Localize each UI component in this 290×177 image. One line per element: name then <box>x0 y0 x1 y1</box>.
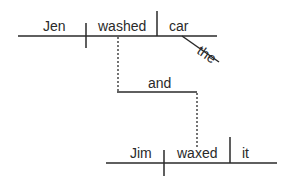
word-jen: Jen <box>43 19 66 33</box>
word-and: and <box>148 76 171 90</box>
word-it: it <box>242 146 249 160</box>
word-waxed: waxed <box>177 146 217 160</box>
word-washed: washed <box>98 19 146 33</box>
word-car: car <box>169 19 188 33</box>
word-jim: Jim <box>130 146 152 160</box>
